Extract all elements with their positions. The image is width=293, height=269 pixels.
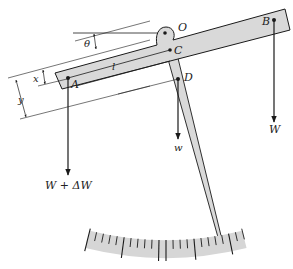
point-C	[168, 48, 172, 52]
balance-beam	[55, 9, 290, 89]
label-y: y	[17, 94, 24, 105]
dial-scale	[85, 229, 247, 261]
label-left-load: W + ΔW	[45, 179, 93, 192]
label-C: C	[174, 44, 183, 57]
label-right-load: W	[269, 123, 282, 136]
label-D: D	[183, 71, 193, 84]
label-O: O	[178, 21, 187, 34]
label-x: x	[33, 73, 39, 84]
label-pointer-weight: w	[174, 142, 183, 153]
theta-dimension-arrow	[94, 34, 96, 49]
scale-tick	[187, 239, 188, 248]
x-dimension-arrow	[43, 70, 45, 84]
label-l: l	[112, 61, 115, 72]
scale-tick	[144, 239, 145, 248]
label-A: A	[70, 78, 79, 91]
label-B: B	[261, 15, 270, 28]
balance-diagram: O C A B D θ x y l W + ΔW W w	[0, 0, 293, 269]
d-extension	[118, 79, 178, 94]
point-O	[163, 31, 167, 35]
label-theta: θ	[84, 38, 90, 49]
